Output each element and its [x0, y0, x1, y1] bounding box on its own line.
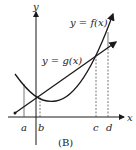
tick-label-d: d [106, 122, 112, 133]
x-axis-label: x [127, 112, 133, 123]
tick-label-a: a [21, 122, 27, 133]
tick-label-b: b [38, 122, 44, 133]
graph-figure: y x y = f(x) y = g(x) a b c d (B) [0, 0, 136, 150]
tick-label-c: c [93, 122, 99, 133]
g-label: y = g(x) [41, 55, 82, 66]
y-axis-label: y [32, 1, 39, 12]
figure-caption: (B) [58, 137, 73, 148]
curve-g-start [14, 112, 17, 115]
f-label: y = f(x) [69, 17, 108, 28]
curve-g [15, 42, 116, 113]
